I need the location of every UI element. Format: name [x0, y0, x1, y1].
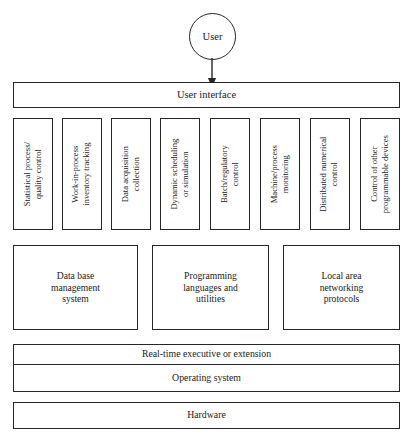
layer-hardware: Hardware: [13, 402, 400, 429]
operating-system-label: Operating system: [172, 372, 241, 384]
app-box-label-line2: control: [330, 162, 340, 186]
app-box-label-line1: Distributed numerical: [319, 136, 329, 211]
app-box-distributed-numerical-control: Distributed numerical control: [310, 118, 350, 230]
app-box-work-in-process-inventory-tracking: Work-in-process inventory tracking: [62, 118, 102, 230]
service-box-database-management-system: Data base management system: [13, 245, 138, 330]
app-box-label: Control of other programmable devices: [369, 135, 391, 213]
service-box-label-line3: protocols: [324, 293, 360, 304]
app-box-label-line1: Control of other: [369, 146, 379, 201]
service-box-label-line2: management: [51, 282, 100, 293]
realtime-executive-label: Real-time executive or extension: [142, 348, 271, 360]
service-box-label-line2: languages and: [183, 282, 238, 293]
app-box-label-line2: quality control: [33, 149, 43, 199]
user-node: User: [189, 13, 236, 60]
service-box-label-line3: system: [62, 293, 89, 304]
service-box-label: Local area networking protocols: [320, 270, 364, 306]
app-box-label-line1: Statistical process/: [22, 142, 32, 206]
service-box-local-area-networking-protocols: Local area networking protocols: [283, 245, 400, 330]
service-box-label-line3: utilities: [196, 293, 225, 304]
app-box-statistical-process-quality-control: Statistical process/ quality control: [13, 118, 53, 230]
service-box-programming-languages-and-utilities: Programming languages and utilities: [152, 245, 269, 330]
service-box-label-line1: Programming: [184, 270, 237, 281]
app-box-control-of-other-programmable-devices: Control of other programmable devices: [360, 118, 400, 230]
app-box-label-line2: monitoring: [280, 155, 290, 193]
service-box-label-line1: Data base: [57, 270, 95, 281]
user-node-label: User: [203, 31, 223, 42]
layer-realtime-executive: Real-time executive or extension: [13, 344, 400, 365]
app-box-label-line1: Work-in-process: [71, 145, 81, 202]
service-box-label-line2: networking: [320, 282, 364, 293]
user-interface-label: User interface: [177, 88, 236, 101]
app-box-label: Data acquisition collection: [120, 146, 142, 202]
service-box-label: Data base management system: [51, 270, 100, 306]
service-box-label: Programming languages and utilities: [183, 270, 238, 306]
app-box-label-line1: Data acquisition: [120, 146, 130, 202]
app-box-label-line2: inventory tracking: [82, 142, 92, 205]
app-box-label-line2: or simulation: [180, 151, 190, 197]
app-box-label-line1: Machine/process: [269, 145, 279, 203]
app-box-label: Work-in-process inventory tracking: [71, 142, 93, 205]
app-box-label: Statistical process/ quality control: [22, 142, 44, 206]
app-box-label-line2: programmable devices: [380, 135, 390, 213]
app-box-dynamic-scheduling-or-simulation: Dynamic scheduling or simulation: [160, 118, 200, 230]
app-box-label: Batch/regulatory control: [219, 145, 241, 203]
layer-operating-system: Operating system: [13, 364, 400, 392]
app-box-label: Distributed numerical control: [319, 136, 341, 211]
app-box-batch-regulatory-control: Batch/regulatory control: [210, 118, 250, 230]
app-box-label: Machine/process monitoring: [269, 145, 291, 203]
app-box-label: Dynamic scheduling or simulation: [169, 139, 191, 210]
service-box-label-line1: Local area: [321, 270, 361, 281]
hardware-label: Hardware: [187, 409, 226, 421]
app-box-data-acquisition-collection: Data acquisition collection: [111, 118, 151, 230]
layer-user-interface: User interface: [13, 82, 400, 108]
app-box-label-line2: collection: [131, 157, 141, 191]
app-box-label-line2: control: [230, 162, 240, 186]
app-box-label-line1: Batch/regulatory: [219, 145, 229, 203]
architecture-diagram: User User interface Statistical process/…: [0, 0, 413, 445]
app-box-machine-process-monitoring: Machine/process monitoring: [260, 118, 300, 230]
app-box-label-line1: Dynamic scheduling: [169, 139, 179, 210]
